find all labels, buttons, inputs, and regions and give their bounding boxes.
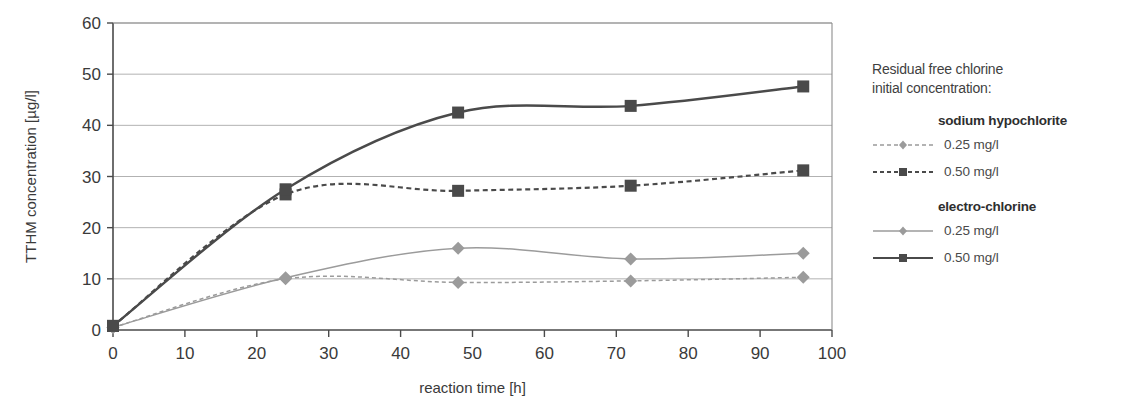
chart-figure: 0102030405060 0102030405060708090100 TTH… [0, 0, 1121, 414]
x-tick-label: 50 [463, 344, 482, 363]
x-tick-label: 30 [319, 344, 338, 363]
data-point-square [625, 180, 637, 192]
legend-item-sodium-hypochlorite-050[interactable]: 0.50 mg/l [872, 160, 1117, 184]
data-point-diamond [797, 271, 810, 284]
legend-swatch-solid-dark-square [872, 251, 934, 265]
data-series-group [107, 80, 810, 333]
y-axis-tick-labels: 0102030405060 [82, 14, 101, 340]
data-point-square [797, 164, 809, 176]
data-point-diamond [452, 276, 465, 289]
legend-item-label: 0.25 mg/l [944, 136, 999, 154]
x-tick-label: 20 [247, 344, 266, 363]
data-point-diamond [452, 242, 465, 255]
series-line [113, 86, 803, 325]
gridlines [113, 23, 832, 279]
series-0 [107, 271, 810, 334]
x-tick-label: 100 [818, 344, 846, 363]
legend-swatch-dashed-gray-diamond [872, 138, 934, 152]
x-tick-label: 80 [679, 344, 698, 363]
legend-group-electro-chlorine: electro-chlorine 0.25 mg/l 0.50 [872, 198, 1117, 270]
y-axis-title: TTHM concentration [µg/l] [22, 90, 39, 263]
data-point-diamond [279, 271, 292, 284]
legend-item-electro-chlorine-025[interactable]: 0.25 mg/l [872, 219, 1117, 243]
x-tick-label: 90 [751, 344, 770, 363]
legend-item-electro-chlorine-050[interactable]: 0.50 mg/l [872, 246, 1117, 270]
data-point-square [107, 320, 119, 332]
legend-item-sodium-hypochlorite-025[interactable]: 0.25 mg/l [872, 133, 1117, 157]
legend-title: Residual free chlorine initial concentra… [872, 60, 1117, 98]
legend-item-label: 0.25 mg/l [944, 222, 999, 240]
legend-item-label: 0.50 mg/l [944, 163, 999, 181]
y-tick-label: 60 [82, 14, 101, 33]
x-tick-label: 60 [535, 344, 554, 363]
x-tick-label: 0 [108, 344, 117, 363]
x-tick-label: 40 [391, 344, 410, 363]
data-point-square [452, 107, 464, 119]
y-tick-label: 10 [82, 270, 101, 289]
x-tick-label: 70 [607, 344, 626, 363]
data-point-square [797, 80, 809, 92]
legend-item-label: 0.50 mg/l [944, 249, 999, 267]
data-point-square [625, 100, 637, 112]
y-tick-label: 50 [82, 65, 101, 84]
y-tick-label: 0 [92, 321, 101, 340]
y-tick-label: 20 [82, 219, 101, 238]
series-3 [107, 80, 809, 331]
y-tick-label: 30 [82, 168, 101, 187]
chart-legend: Residual free chlorine initial concentra… [872, 60, 1117, 270]
x-tick-label: 10 [175, 344, 194, 363]
data-point-diamond [624, 274, 637, 287]
x-axis-ticks [113, 330, 832, 337]
data-point-square [280, 183, 292, 195]
x-axis-title: reaction time [h] [419, 379, 526, 396]
y-tick-label: 40 [82, 116, 101, 135]
x-axis-tick-labels: 0102030405060708090100 [108, 344, 846, 363]
y-axis-ticks [107, 23, 113, 330]
legend-group-sodium-hypochlorite: sodium hypochlorite 0.25 mg/l 0 [872, 112, 1117, 184]
data-point-square [452, 185, 464, 197]
data-point-diamond [797, 247, 810, 260]
legend-group-heading: sodium hypochlorite [938, 112, 1117, 130]
legend-group-heading: electro-chlorine [938, 198, 1117, 216]
legend-swatch-dashed-dark-square [872, 165, 934, 179]
legend-swatch-solid-gray-diamond [872, 224, 934, 238]
data-point-diamond [624, 252, 637, 265]
line-chart-plot: 0102030405060 0102030405060708090100 TTH… [0, 0, 872, 414]
